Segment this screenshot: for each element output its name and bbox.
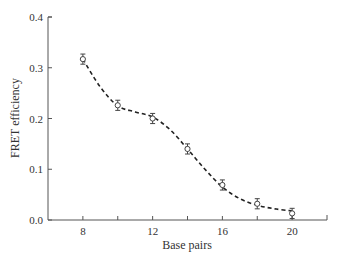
y-tick-label: 0.2	[29, 113, 43, 125]
fit-line	[83, 59, 292, 211]
data-point	[150, 113, 155, 123]
data-point	[185, 144, 190, 154]
x-tick-label: 20	[287, 225, 299, 237]
fit-curve	[83, 59, 292, 211]
y-tick-label: 0.1	[29, 163, 43, 175]
circle-marker-icon	[115, 103, 120, 108]
chart-canvas: 0.00.10.20.30.48121620 Base pairs FRET e…	[0, 0, 340, 264]
x-tick-label: 16	[217, 225, 229, 237]
data-point	[115, 100, 120, 110]
fret-efficiency-chart: 0.00.10.20.30.48121620 Base pairs FRET e…	[0, 0, 340, 264]
y-tick-label: 0.0	[29, 214, 43, 226]
circle-marker-icon	[220, 182, 225, 187]
circle-marker-icon	[185, 146, 190, 151]
x-axis-title: Base pairs	[162, 238, 212, 252]
x-tick-label: 8	[80, 225, 86, 237]
circle-marker-icon	[150, 116, 155, 121]
y-tick-label: 0.3	[29, 62, 43, 74]
axis-lines	[48, 17, 327, 220]
data-point	[290, 208, 295, 218]
axes: 0.00.10.20.30.48121620	[29, 11, 327, 237]
y-axis-title: FRET efficiency	[8, 78, 22, 158]
circle-marker-icon	[290, 211, 295, 216]
data-point	[255, 199, 260, 209]
x-tick-label: 12	[147, 225, 158, 237]
circle-marker-icon	[255, 201, 260, 206]
circle-marker-icon	[80, 57, 85, 62]
data-points	[80, 54, 294, 218]
y-tick-label: 0.4	[29, 11, 43, 23]
data-point	[80, 54, 85, 64]
